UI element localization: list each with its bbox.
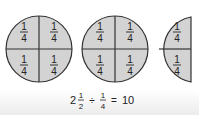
whole-circle-2 xyxy=(82,16,148,82)
svg-text:4: 4 xyxy=(127,66,133,77)
svg-text:1: 1 xyxy=(21,54,27,65)
equation-operator: ÷ xyxy=(89,95,95,106)
svg-text:4: 4 xyxy=(51,66,57,77)
equation-equals: = xyxy=(111,95,117,106)
equation-divisor-numerator: 1 xyxy=(101,91,106,100)
equation-result: 10 xyxy=(122,94,134,106)
svg-text:4: 4 xyxy=(21,66,27,77)
svg-text:4: 4 xyxy=(21,33,27,44)
svg-text:1: 1 xyxy=(97,21,103,32)
svg-text:1: 1 xyxy=(174,21,180,32)
svg-text:1: 1 xyxy=(51,54,57,65)
equation-mixed-numerator: 1 xyxy=(79,91,84,100)
svg-text:4: 4 xyxy=(174,33,180,44)
svg-text:1: 1 xyxy=(127,21,133,32)
equation-whole: 2 xyxy=(70,94,76,106)
whole-circle-1 xyxy=(6,16,72,82)
equation-mixed-denominator: 2 xyxy=(79,102,84,111)
svg-text:4: 4 xyxy=(97,33,103,44)
svg-text:4: 4 xyxy=(174,66,180,77)
svg-text:1: 1 xyxy=(51,21,57,32)
fraction-circles-diagram: 14141414141414141414 2 1 2 ÷ 1 4 = 10 xyxy=(0,0,199,115)
equation-divisor-denominator: 4 xyxy=(101,102,106,111)
svg-text:1: 1 xyxy=(97,54,103,65)
svg-text:4: 4 xyxy=(97,66,103,77)
equation: 2 1 2 ÷ 1 4 = 10 xyxy=(70,91,134,111)
svg-text:1: 1 xyxy=(21,21,27,32)
svg-text:4: 4 xyxy=(51,33,57,44)
svg-text:1: 1 xyxy=(127,54,133,65)
svg-text:4: 4 xyxy=(127,33,133,44)
svg-text:1: 1 xyxy=(174,54,180,65)
